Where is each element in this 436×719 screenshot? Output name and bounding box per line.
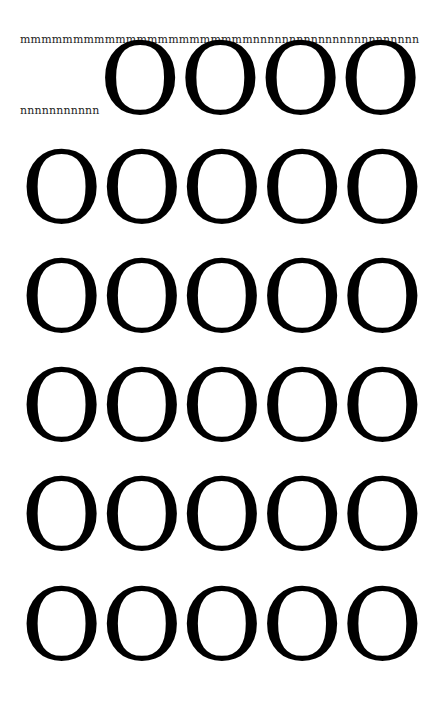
large-o-row: OOOOO — [21, 576, 422, 675]
large-o-row: OOOOO — [21, 139, 422, 238]
large-o-row: OOOOO — [21, 466, 422, 565]
large-o-row: OOOOO — [21, 357, 422, 456]
large-text-run-o: OOOO — [100, 22, 421, 137]
large-o-row: OOOOO — [21, 248, 422, 347]
mixed-size-line: nnnnnnnnnnnOOOO — [20, 30, 420, 129]
small-text-run-n: nnnnnnnnnnn — [20, 104, 100, 117]
